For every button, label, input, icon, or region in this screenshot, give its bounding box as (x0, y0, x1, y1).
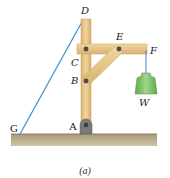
pin-B (84, 79, 89, 84)
pin-A (84, 123, 88, 127)
label-G: G (10, 123, 18, 134)
pin-E (117, 47, 122, 52)
label-F: F (150, 46, 157, 56)
label-B: B (71, 76, 78, 86)
frame-diagram (0, 0, 170, 178)
ground (11, 134, 157, 146)
figure-caption: (a) (0, 165, 170, 176)
pin-C (84, 47, 89, 52)
weight-W (135, 73, 157, 94)
label-W: W (139, 98, 149, 108)
label-D: D (81, 6, 89, 16)
label-E: E (116, 32, 123, 42)
label-C: C (71, 58, 79, 68)
label-A: A (69, 121, 77, 132)
